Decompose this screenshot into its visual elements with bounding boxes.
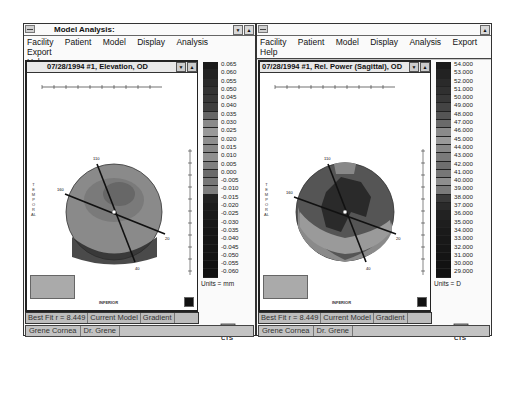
scale-swatch — [203, 112, 218, 120]
menu-display[interactable]: Display — [370, 37, 398, 47]
elevation-map-window: 07/28/1994 #1, Elevation, OD ▼ ▲ TEMPORA… — [25, 60, 199, 312]
doctor-name[interactable]: Dr. Grene — [314, 326, 354, 336]
scale-label: 0.045 — [221, 93, 239, 101]
scale-label: 41.000 — [454, 168, 473, 176]
scale-swatch — [436, 195, 451, 203]
scale-label: 0.065 — [221, 60, 239, 68]
side-ruler — [418, 147, 428, 277]
inferior-label: INFERIOR — [99, 300, 118, 305]
menu-patient[interactable]: Patient — [298, 37, 324, 47]
corneal-power-map[interactable]: 110 160 20 40 — [286, 152, 404, 272]
maximize-button[interactable]: ▲ — [480, 25, 490, 35]
scale-swatch — [436, 128, 451, 136]
scale-label: 0.010 — [221, 151, 239, 159]
scale-label: -0.005 — [221, 176, 239, 184]
menu-model[interactable]: Model — [103, 37, 126, 47]
scale-swatch — [203, 269, 218, 277]
scale-swatch — [203, 195, 218, 203]
scale-swatch — [436, 245, 451, 253]
scale-label: 53.000 — [454, 68, 473, 76]
scale-label: 49.000 — [454, 101, 473, 109]
scale-swatch — [203, 236, 218, 244]
scale-label: 51.000 — [454, 85, 473, 93]
axis-label-right: 20 — [165, 236, 170, 241]
patient-cornea[interactable]: Grene Cornea — [26, 326, 81, 336]
scale-swatch — [203, 103, 218, 111]
scale-swatch — [203, 170, 218, 178]
minimize-button[interactable]: ▼ — [233, 25, 243, 35]
scale-swatch — [436, 170, 451, 178]
power-map-window: 07/28/1994 #1, Rel. Power (Sagittal), OD… — [258, 60, 432, 312]
scale-label: 31.000 — [454, 251, 473, 259]
scale-swatch — [436, 70, 451, 78]
scale-swatch — [203, 145, 218, 153]
maximize-button[interactable]: ▲ — [244, 25, 254, 35]
color-toggle-button[interactable] — [184, 297, 194, 307]
model-analysis-window-left: Model Analysis: ▼ ▲ Facility Patient Mod… — [23, 23, 256, 336]
scale-label: 42.000 — [454, 160, 473, 168]
scale-label: 0.030 — [221, 118, 239, 126]
scale-label: -0.025 — [221, 209, 239, 217]
scale-swatch — [203, 253, 218, 261]
status-current-model[interactable]: Current Model — [88, 313, 141, 323]
status-bar: Best Fit r = 8.449 Current Model Gradien… — [258, 312, 432, 324]
menu-patient[interactable]: Patient — [65, 37, 91, 47]
scale-label: 35.000 — [454, 218, 473, 226]
map-maximize-button[interactable]: ▲ — [187, 62, 197, 72]
axis-label-top: 110 — [93, 156, 100, 161]
scale-labels: 0.0650.0600.0550.0500.0450.0400.0350.030… — [221, 60, 239, 276]
scale-swatch — [203, 261, 218, 269]
scale-swatch — [203, 220, 218, 228]
corneal-elevation-map[interactable]: 110 160 20 40 — [57, 152, 172, 272]
scale-labels: 54.00053.00052.00051.00050.00049.00048.0… — [454, 60, 473, 276]
doctor-name[interactable]: Dr. Grene — [81, 326, 121, 336]
temporal-label: TEMPORAL — [264, 182, 269, 217]
menu-export[interactable]: Export — [27, 47, 52, 57]
scale-label: 34.000 — [454, 226, 473, 234]
axis-label-left: 160 — [57, 187, 64, 192]
map-minimize-button[interactable]: ▼ — [176, 62, 186, 72]
axis-label-bottom: 40 — [135, 266, 140, 271]
status-gradient[interactable]: Gradient — [374, 313, 408, 323]
scale-label: 47.000 — [454, 118, 473, 126]
map-minimize-button[interactable]: ▼ — [409, 62, 419, 72]
axis-label-right: 20 — [396, 236, 401, 241]
scale-swatch — [436, 103, 451, 111]
scale-label: -0.030 — [221, 218, 239, 226]
scale-swatch — [203, 79, 218, 87]
menu-export[interactable]: Export — [452, 37, 477, 47]
title-bar: Model Analysis: ▼ ▲ — [24, 24, 255, 36]
menu-model[interactable]: Model — [336, 37, 359, 47]
system-menu-icon[interactable] — [258, 25, 268, 33]
scale-label: 48.000 — [454, 110, 473, 118]
scale-swatch — [436, 211, 451, 219]
menu-display[interactable]: Display — [137, 37, 165, 47]
scale-swatch — [203, 186, 218, 194]
scale-swatch — [436, 261, 451, 269]
map-maximize-button[interactable]: ▲ — [420, 62, 430, 72]
status-best-fit[interactable]: Best Fit r = 8.449 — [26, 313, 88, 323]
status-best-fit[interactable]: Best Fit r = 8.449 — [259, 313, 321, 323]
scale-label: 43.000 — [454, 151, 473, 159]
scale-swatch — [436, 112, 451, 120]
menu-analysis[interactable]: Analysis — [409, 37, 441, 47]
color-scale: 54.00053.00052.00051.00050.00049.00048.0… — [431, 60, 488, 312]
color-toggle-button[interactable] — [417, 297, 427, 307]
scale-label: 0.000 — [221, 168, 239, 176]
info-box — [263, 275, 308, 299]
scale-label: 0.050 — [221, 85, 239, 93]
status-gradient[interactable]: Gradient — [141, 313, 175, 323]
axis-label-top: 110 — [324, 156, 331, 161]
status-current-model[interactable]: Current Model — [321, 313, 374, 323]
scale-label: -0.055 — [221, 259, 239, 267]
scale-label: 0.025 — [221, 126, 239, 134]
scale-label: 38.000 — [454, 193, 473, 201]
scale-swatches — [203, 62, 218, 278]
menu-facility[interactable]: Facility — [27, 37, 53, 47]
patient-cornea[interactable]: Grene Cornea — [259, 326, 314, 336]
menu-help[interactable]: Help — [260, 47, 277, 57]
scale-swatch — [436, 145, 451, 153]
menu-analysis[interactable]: Analysis — [176, 37, 208, 47]
system-menu-icon[interactable] — [25, 25, 35, 33]
menu-facility[interactable]: Facility — [260, 37, 286, 47]
